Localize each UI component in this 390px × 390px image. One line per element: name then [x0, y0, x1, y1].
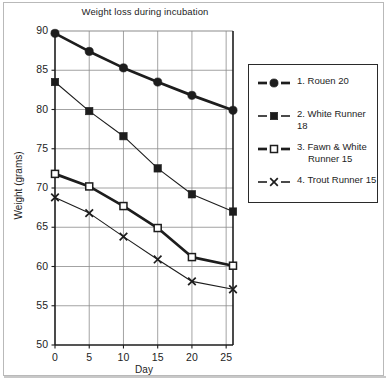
- legend-marker-icon: [257, 75, 291, 91]
- series-2: [51, 78, 236, 215]
- y-tick-label: 65: [22, 220, 48, 232]
- y-tick-label: 55: [22, 299, 48, 311]
- y-tick-label: 80: [22, 103, 48, 115]
- legend-label: 2. White Runner 18: [297, 108, 377, 131]
- legend-item[interactable]: 1. Rouen 20: [257, 75, 375, 101]
- series-3: [52, 170, 237, 269]
- chart-page: Weight loss during incubation 9085807570…: [0, 0, 390, 390]
- legend-marker-icon: [257, 141, 291, 157]
- axis-ticks: [52, 31, 227, 349]
- x-tick-label: 5: [77, 351, 101, 363]
- y-axis-title: Weight (grams): [13, 131, 24, 241]
- legend-label: 1. Rouen 20: [297, 75, 377, 87]
- legend-label: 3. Fawn & WhiteRunner 15: [297, 141, 377, 164]
- y-tick-label: 85: [22, 63, 48, 75]
- y-tick-label: 70: [22, 181, 48, 193]
- y-tick-label: 60: [22, 260, 48, 272]
- x-tick-label: 0: [43, 351, 67, 363]
- legend-item[interactable]: 3. Fawn & WhiteRunner 15: [257, 141, 375, 167]
- y-tick-label: 50: [22, 338, 48, 350]
- legend-label: 4. Trout Runner 15: [297, 174, 377, 186]
- x-tick-label: 20: [180, 351, 204, 363]
- x-tick-label: 25: [214, 351, 238, 363]
- data-series-layer: [51, 29, 237, 293]
- y-tick-label: 90: [22, 24, 48, 36]
- legend-marker-icon: [257, 174, 291, 190]
- legend-label-line1: 2. White Runner 18: [297, 108, 377, 131]
- x-tick-label: 15: [146, 351, 170, 363]
- legend-label-line1: 4. Trout Runner 15: [297, 174, 377, 186]
- x-tick-label: 10: [111, 351, 135, 363]
- legend-item[interactable]: 2. White Runner 18: [257, 108, 375, 134]
- legend: 1. Rouen 202. White Runner 183. Fawn & W…: [248, 64, 378, 203]
- legend-marker-icon: [257, 108, 291, 124]
- legend-label-line1: 1. Rouen 20: [297, 75, 377, 87]
- x-axis-title: Day: [55, 364, 233, 375]
- gridlines: [55, 31, 233, 345]
- y-tick-label: 75: [22, 142, 48, 154]
- legend-item[interactable]: 4. Trout Runner 15: [257, 174, 375, 200]
- series-4: [51, 194, 237, 293]
- legend-label-line2: Runner 15: [297, 153, 377, 165]
- legend-label-line1: 3. Fawn & White: [297, 141, 377, 153]
